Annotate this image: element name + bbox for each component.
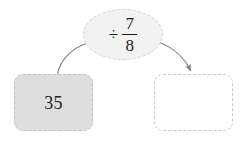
fraction-numerator: 7 <box>124 15 135 32</box>
fraction-seven-eighths: 7 8 <box>122 15 137 54</box>
input-value-label: 35 <box>44 94 63 112</box>
input-value-box: 35 <box>14 74 93 131</box>
function-machine-diagram: 35 ÷ 7 8 <box>0 0 244 141</box>
operation-bubble: ÷ 7 8 <box>83 9 163 60</box>
fraction-denominator: 8 <box>124 37 135 54</box>
connector-input-to-operation <box>58 44 87 75</box>
division-sign-icon: ÷ <box>109 26 118 43</box>
connector-operation-to-output <box>160 43 191 71</box>
output-answer-box[interactable] <box>154 74 233 131</box>
fraction-bar <box>122 34 137 35</box>
